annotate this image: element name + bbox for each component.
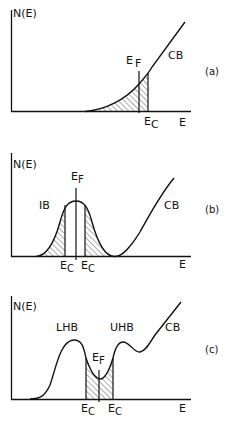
mobility-edge-label-right: EC — [108, 402, 122, 417]
fermi-level-label: EF — [126, 54, 141, 70]
panel-a: N(E) EF CB (a) EC E — [11, 7, 219, 131]
density-of-states-figure: N(E) EF CB (a) EC E N(E) EF IB CB (b) EC… — [0, 0, 236, 429]
x-axis-label: E — [179, 402, 186, 415]
x-axis-label: E — [179, 116, 186, 129]
panel-label: (b) — [205, 204, 219, 215]
fermi-level-label: EF — [71, 170, 84, 185]
mobility-edge-label-left: EC — [81, 402, 95, 417]
y-axis-label: N(E) — [13, 300, 37, 313]
mobility-edge-label-left: EC — [60, 259, 74, 274]
mobility-edge-label-right: EC — [81, 259, 95, 274]
y-axis-label: N(E) — [13, 158, 37, 171]
band-label-uhb: UHB — [110, 321, 134, 334]
panel-label: (c) — [205, 344, 218, 355]
panel-label: (a) — [205, 66, 219, 77]
band-label-lhb: LHB — [56, 321, 78, 334]
panel-c: N(E) LHB UHB CB EF (c) EC EC E — [11, 296, 218, 417]
localized-states-hatch-left — [36, 206, 65, 257]
mobility-edge-label: EC — [144, 115, 159, 131]
band-label-cb: CB — [164, 199, 179, 212]
band-label-ib: IB — [39, 199, 50, 212]
y-axis-label: N(E) — [13, 7, 37, 20]
fermi-level-label: EF — [92, 351, 105, 366]
x-axis-label: E — [179, 258, 186, 271]
panel-b: N(E) EF IB CB (b) EC EC E — [11, 153, 219, 274]
band-label-cb: CB — [165, 321, 180, 334]
band-label-cb: CB — [168, 49, 183, 62]
